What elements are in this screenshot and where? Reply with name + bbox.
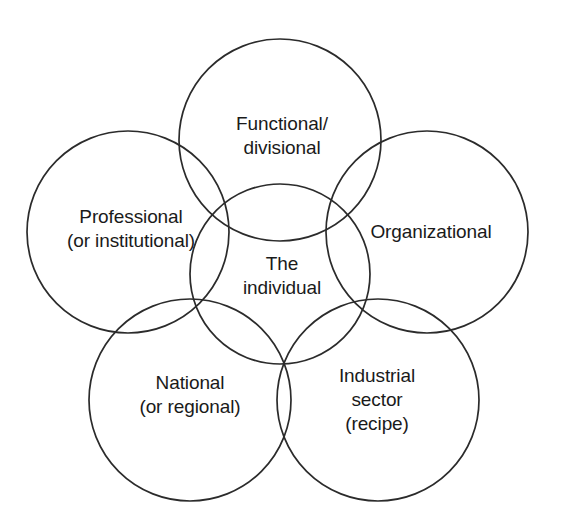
circle-professional-institutional bbox=[27, 131, 229, 333]
circle-the-individual bbox=[190, 184, 370, 364]
circle-functional-divisional bbox=[179, 39, 381, 241]
venn-diagram: Functional/divisional Professional(or in… bbox=[0, 0, 561, 526]
venn-circles-group bbox=[0, 0, 561, 526]
circle-organizational bbox=[326, 131, 528, 333]
circle-industrial-sector bbox=[277, 299, 479, 501]
circle-national-regional bbox=[89, 299, 291, 501]
